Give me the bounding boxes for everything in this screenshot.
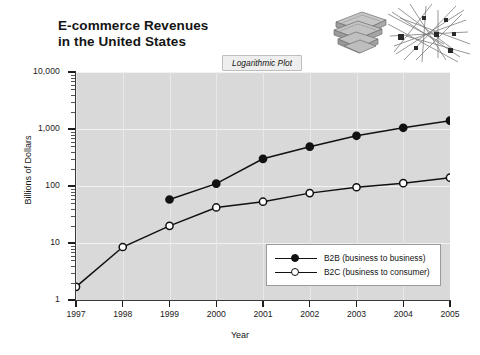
data-point-b2c-2004 [400, 180, 407, 187]
x-tick-label: 1998 [103, 309, 143, 319]
x-tick [309, 301, 310, 307]
data-point-b2b-2002 [306, 143, 313, 150]
x-tick [449, 301, 450, 307]
y-tick-minor [71, 95, 75, 96]
y-tick-minor [71, 159, 75, 160]
data-point-b2b-2000 [213, 180, 220, 187]
y-tick-minor [71, 169, 75, 170]
y-tick-minor [71, 283, 75, 284]
y-tick-minor [71, 273, 75, 274]
legend-item-b2b: B2B (business to business) [275, 251, 430, 265]
y-tick-minor [71, 132, 75, 133]
y-tick-minor [71, 142, 75, 143]
x-tick [403, 301, 404, 307]
y-tick-minor [71, 85, 75, 86]
y-tick-minor [71, 89, 75, 90]
y-tick-minor [71, 226, 75, 227]
y-tick-minor [71, 203, 75, 204]
data-point-b2c-2003 [353, 184, 360, 191]
data-point-b2b-1999 [166, 196, 173, 203]
y-tick-minor [71, 195, 75, 196]
data-point-b2b-2005 [446, 117, 450, 124]
y-tick-minor [71, 135, 75, 136]
x-axis-title: Year [0, 330, 480, 340]
chart-page: E-commerce Revenues in the United States [0, 0, 480, 355]
data-point-b2c-1999 [166, 222, 173, 229]
y-tick-minor [71, 189, 75, 190]
data-point-b2b-2001 [259, 155, 266, 162]
x-tick [356, 301, 357, 307]
y-tick-label: 10,000 [8, 66, 60, 76]
y-tick-minor [71, 199, 75, 200]
data-point-b2c-2005 [446, 174, 450, 181]
legend-item-b2c: B2C (business to consumer) [275, 265, 430, 279]
data-point-b2b-2004 [400, 124, 407, 131]
y-tick-label: 1 [8, 294, 60, 304]
y-tick-minor [71, 266, 75, 267]
data-point-b2c-2000 [213, 204, 220, 211]
y-tick-label: 1,000 [8, 123, 60, 133]
y-tick-minor [71, 260, 75, 261]
y-tick-minor [71, 138, 75, 139]
y-tick-minor [71, 112, 75, 113]
x-tick-label: 2005 [430, 309, 470, 319]
y-tick-minor [71, 146, 75, 147]
data-point-b2b-2003 [353, 132, 360, 139]
x-tick [122, 301, 123, 307]
data-point-b2c-2001 [259, 198, 266, 205]
x-tick [262, 301, 263, 307]
logarithmic-plot-annotation: Logarithmic Plot [222, 55, 302, 71]
y-tick-minor [71, 216, 75, 217]
legend-label-b2b: B2B (business to business) [324, 253, 425, 263]
y-tick-minor [71, 78, 75, 79]
x-tick-label: 2002 [290, 309, 330, 319]
data-point-b2c-1998 [119, 243, 126, 250]
y-tick-label: 10 [8, 237, 60, 247]
legend-label-b2c: B2C (business to consumer) [324, 267, 430, 277]
y-tick-major [68, 128, 75, 130]
y-tick-minor [71, 256, 75, 257]
x-tick [75, 301, 76, 307]
y-axis-line [75, 71, 76, 301]
y-tick-major [68, 71, 75, 73]
y-tick-minor [71, 192, 75, 193]
x-tick-label: 1999 [150, 309, 190, 319]
series-line-b2b [170, 121, 451, 200]
x-tick [216, 301, 217, 307]
y-tick-minor [71, 75, 75, 76]
y-tick-minor [71, 209, 75, 210]
y-tick-minor [71, 246, 75, 247]
data-point-b2c-2002 [306, 190, 313, 197]
network-diagram-icon [386, 2, 472, 64]
x-tick-label: 2001 [243, 309, 283, 319]
chart-legend: B2B (business to business) B2C (business… [266, 244, 441, 286]
y-axis-title: Billions of Dollars [23, 110, 33, 230]
x-tick-label: 2004 [383, 309, 423, 319]
data-point-b2c-1997 [76, 283, 80, 290]
y-tick-minor [71, 81, 75, 82]
y-tick-major [68, 299, 75, 301]
y-tick-minor [71, 252, 75, 253]
y-tick-major [68, 242, 75, 244]
y-tick-minor [71, 152, 75, 153]
money-stack-icon [332, 6, 390, 58]
legend-marker-filled-circle-icon [275, 253, 317, 263]
x-tick-label: 1997 [56, 309, 96, 319]
y-tick-minor [71, 102, 75, 103]
x-tick-label: 2003 [337, 309, 377, 319]
y-tick-minor [71, 249, 75, 250]
y-tick-label: 100 [8, 180, 60, 190]
y-tick-major [68, 185, 75, 187]
chart-title: E-commerce Revenues in the United States [58, 18, 208, 50]
x-tick-label: 2000 [196, 309, 236, 319]
legend-marker-open-circle-icon [275, 267, 317, 277]
x-tick [169, 301, 170, 307]
